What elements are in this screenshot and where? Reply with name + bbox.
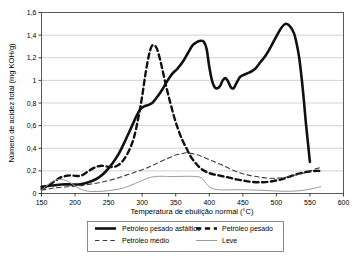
chart-legend: Petróleo pesado asfálticoPetróleo pesado… <box>88 222 284 252</box>
y-tick-label: 0,4 <box>27 145 37 152</box>
chart-figure: 00,20,40,60,811,21,41,6 1502002503003504… <box>0 0 354 261</box>
series-line <box>42 45 321 189</box>
y-tick-label: 1 <box>33 77 37 84</box>
y-tick-label: 0 <box>33 190 37 197</box>
series-line <box>42 24 310 187</box>
x-tick-label: 500 <box>271 199 283 206</box>
y-tick-labels: 00,20,40,60,811,21,41,6 <box>27 9 37 197</box>
x-tick-label: 300 <box>136 199 148 206</box>
x-tick-label: 600 <box>338 199 350 206</box>
legend-label: Leve <box>222 237 237 244</box>
y-tick-label: 1,4 <box>27 32 37 39</box>
y-tick-label: 0,2 <box>27 167 37 174</box>
x-tick-label: 200 <box>69 199 81 206</box>
x-tick-label: 350 <box>170 199 182 206</box>
x-tick-label: 150 <box>36 199 48 206</box>
legend-label: Petróleo pesado asfáltico <box>122 225 201 233</box>
x-axis-title: Temperatura de ebulição normal (°C) <box>130 207 254 216</box>
data-series <box>42 24 321 192</box>
y-tick-label: 1,2 <box>27 54 37 61</box>
y-axis-title: Número de acidez total (mg KOH/g) <box>7 43 16 163</box>
x-tick-label: 250 <box>103 199 115 206</box>
grid-lines <box>42 13 344 171</box>
y-tick-label: 0,6 <box>27 122 37 129</box>
legend-label: Petróleo pesado <box>222 225 273 233</box>
chart-canvas: 00,20,40,60,811,21,41,6 1502002503003504… <box>0 0 354 261</box>
legend-label: Petróleo médio <box>122 237 169 244</box>
x-tick-label: 550 <box>304 199 316 206</box>
y-tick-label: 1,6 <box>27 9 37 16</box>
x-tick-label: 400 <box>203 199 215 206</box>
x-tick-labels: 150200250300350400450500550600 <box>36 199 350 206</box>
y-tick-label: 0,8 <box>27 100 37 107</box>
x-tick-label: 450 <box>237 199 249 206</box>
